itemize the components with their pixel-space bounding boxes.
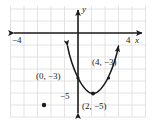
x-axis-tick-label-4: 4 <box>126 36 131 45</box>
point-marker-0-neg3 <box>76 76 79 79</box>
point-marker-vertex-2-neg5 <box>91 92 95 96</box>
parabola-curve <box>68 46 119 94</box>
coordinate-plane-svg <box>0 0 153 120</box>
point-marker-4-neg3 <box>107 76 110 79</box>
y-axis-label: y <box>82 5 86 14</box>
x-axis-tick-label-negative-4: −4 <box>12 36 22 45</box>
point-label-4-neg3: (4, −3) <box>92 58 117 67</box>
y-axis-tick-label-negative-5: −5 <box>60 92 70 101</box>
graph-figure: −4 4 x y −5 (0, −3) (4, −3) (2, −5) <box>0 0 153 120</box>
point-label-0-neg3: (0, −3) <box>36 72 61 81</box>
stray-point-marker <box>42 103 46 107</box>
point-label-2-neg5: (2, −5) <box>82 102 107 111</box>
x-axis-label: x <box>135 36 139 45</box>
